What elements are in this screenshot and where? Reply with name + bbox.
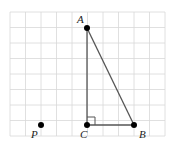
points: ACBP [30,13,146,140]
label-A: A [76,13,84,25]
point-A [84,25,90,31]
triangle-diagram: ACBP [0,0,170,147]
triangle-segments [87,28,134,125]
label-B: B [139,128,146,140]
label-C: C [80,128,88,140]
point-B [131,122,137,128]
label-P: P [30,128,38,140]
segment-AB [87,28,134,125]
point-P [38,122,44,128]
